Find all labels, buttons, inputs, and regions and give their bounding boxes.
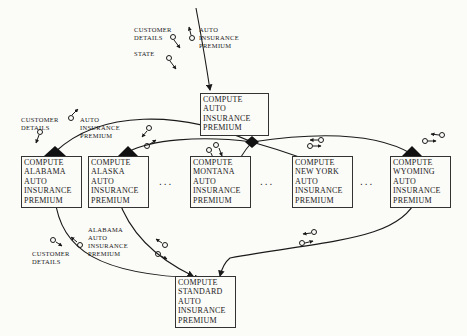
- label-left-customer-details: CUSTOMER DETAILS: [21, 116, 59, 132]
- label-line: PREMIUM: [88, 250, 128, 258]
- label-bottom-alabama-premium: ALABAMA AUTO INSURANCE PREMIUM: [88, 226, 128, 258]
- module-line: INSURANCE: [91, 186, 146, 195]
- module-alabama: COMPUTE ALABAMA AUTO INSURANCE PREMIUM: [21, 156, 82, 208]
- module-line: COMPUTE: [203, 95, 266, 104]
- module-line: MONTANA: [193, 167, 248, 176]
- module-line: PREMIUM: [24, 196, 79, 205]
- module-line: COMPUTE: [393, 158, 448, 167]
- module-line: ALASKA: [91, 167, 146, 176]
- label-line: STATE: [134, 50, 154, 58]
- module-line: AUTO: [24, 177, 79, 186]
- module-compute-auto-insurance-premium: COMPUTE AUTO INSURANCE PREMIUM: [200, 93, 269, 136]
- module-line: AUTO: [203, 104, 266, 113]
- module-line: COMPUTE: [295, 158, 350, 167]
- module-line: PREMIUM: [91, 196, 146, 205]
- label-line: AUTO: [88, 234, 128, 242]
- module-line: INSURANCE: [295, 186, 350, 195]
- module-line: PREMIUM: [178, 316, 233, 325]
- label-line: INSURANCE: [80, 124, 120, 132]
- module-line: WYOMING: [393, 167, 448, 176]
- ellipsis-3: ...: [360, 176, 374, 187]
- module-line: INSURANCE: [178, 306, 233, 315]
- module-wyoming: COMPUTE WYOMING AUTO INSURANCE PREMIUM: [390, 156, 451, 208]
- module-montana: COMPUTE MONTANA AUTO INSURANCE PREMIUM: [190, 156, 251, 208]
- label-left-premium: AUTO INSURANCE PREMIUM: [80, 116, 120, 140]
- ellipsis-1: ...: [159, 176, 173, 187]
- module-line: AUTO: [178, 297, 233, 306]
- label-line: DETAILS: [134, 34, 172, 42]
- label-line: AUTO: [80, 116, 120, 124]
- label-line: DETAILS: [32, 258, 70, 266]
- module-line: AUTO: [295, 177, 350, 186]
- label-top-premium: AUTO INSURANCE PREMIUM: [199, 26, 239, 50]
- label-line: DETAILS: [21, 124, 59, 132]
- module-line: PREMIUM: [203, 123, 266, 132]
- module-line: AUTO: [91, 177, 146, 186]
- label-line: CUSTOMER: [21, 116, 59, 124]
- module-line: ALABAMA: [24, 167, 79, 176]
- label-line: AUTO: [199, 26, 239, 34]
- label-line: CUSTOMER: [32, 250, 70, 258]
- module-line: PREMIUM: [295, 196, 350, 205]
- label-bottom-customer-details: CUSTOMER DETAILS: [32, 250, 70, 266]
- label-top-customer-details: CUSTOMER DETAILS: [134, 26, 172, 42]
- module-line: STANDARD: [178, 287, 233, 296]
- module-standard: COMPUTE STANDARD AUTO INSURANCE PREMIUM: [175, 276, 236, 328]
- label-top-state: STATE: [134, 50, 154, 58]
- module-line: AUTO: [193, 177, 248, 186]
- module-new-york: COMPUTE NEW YORK AUTO INSURANCE PREMIUM: [292, 156, 353, 208]
- label-line: INSURANCE: [88, 242, 128, 250]
- module-line: COMPUTE: [24, 158, 79, 167]
- module-line: COMPUTE: [193, 158, 248, 167]
- label-line: INSURANCE: [199, 34, 239, 42]
- label-line: CUSTOMER: [134, 26, 172, 34]
- ellipsis-2: ...: [260, 176, 274, 187]
- module-line: PREMIUM: [193, 196, 248, 205]
- module-line: COMPUTE: [178, 278, 233, 287]
- label-line: ALABAMA: [88, 226, 128, 234]
- module-alaska: COMPUTE ALASKA AUTO INSURANCE PREMIUM: [88, 156, 149, 208]
- module-line: INSURANCE: [393, 186, 448, 195]
- module-line: INSURANCE: [193, 186, 248, 195]
- module-line: COMPUTE: [91, 158, 146, 167]
- module-line: INSURANCE: [203, 114, 266, 123]
- label-line: PREMIUM: [199, 42, 239, 50]
- module-line: INSURANCE: [24, 186, 79, 195]
- module-line: PREMIUM: [393, 196, 448, 205]
- module-line: AUTO: [393, 177, 448, 186]
- module-line: NEW YORK: [295, 167, 350, 176]
- label-line: PREMIUM: [80, 132, 120, 140]
